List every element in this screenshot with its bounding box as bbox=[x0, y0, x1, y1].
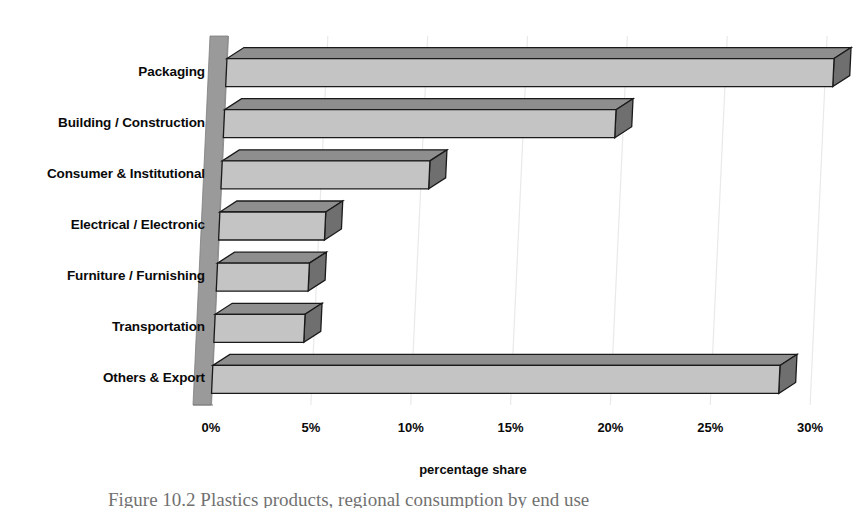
category-label: Others & Export bbox=[0, 371, 205, 385]
bar-1 bbox=[226, 48, 851, 87]
x-tick-label: 0% bbox=[202, 420, 221, 436]
x-tick-label: 20% bbox=[597, 420, 623, 436]
bar-3 bbox=[221, 150, 447, 189]
x-tick-label: 30% bbox=[797, 420, 823, 436]
category-label: Transportation bbox=[0, 320, 205, 334]
x-tick-label: 15% bbox=[498, 420, 524, 436]
bar-5 bbox=[216, 252, 326, 291]
x-tick-label: 5% bbox=[301, 420, 320, 436]
category-label: Packaging bbox=[0, 65, 205, 79]
x-axis-title-text: percentage share bbox=[419, 462, 527, 477]
figure-plastics-end-use: PackagingBuilding / ConstructionConsumer… bbox=[0, 0, 861, 508]
bar-7 bbox=[212, 354, 797, 393]
figure-caption: Figure 10.2 Plastics products, regional … bbox=[108, 489, 848, 508]
category-label: Consumer & Institutional bbox=[0, 167, 205, 181]
value-axis-tick-labels: 0%5%10%15%20%25%30% bbox=[0, 420, 861, 442]
bar-6 bbox=[214, 303, 322, 342]
bar-2 bbox=[223, 99, 633, 138]
category-label: Electrical / Electronic bbox=[0, 218, 205, 232]
x-tick-label: 25% bbox=[697, 420, 723, 436]
category-label: Building / Construction bbox=[0, 116, 205, 130]
bar-4 bbox=[219, 201, 343, 240]
grid-lines bbox=[311, 36, 827, 405]
category-label: Furniture / Furnishing bbox=[0, 269, 205, 283]
bars bbox=[212, 48, 852, 394]
x-tick-label: 10% bbox=[398, 420, 424, 436]
x-axis-title: percentage share bbox=[0, 462, 861, 477]
